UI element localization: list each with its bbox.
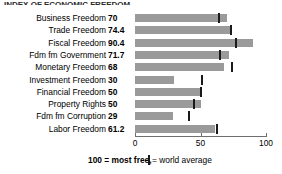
category-label: Business Freedom bbox=[0, 12, 106, 24]
score-value: 74.4 bbox=[108, 24, 131, 36]
chart-legend: 100 = most free, = world average bbox=[0, 154, 282, 170]
score-value: 29 bbox=[108, 110, 131, 122]
score-value: 30 bbox=[108, 74, 131, 86]
bar-row: Business Freedom70 bbox=[0, 12, 282, 24]
score-bar bbox=[135, 26, 232, 34]
bar-row: Property Rights50 bbox=[0, 98, 282, 110]
category-label: Fiscal Freedom bbox=[0, 37, 106, 49]
category-label: Labor Freedom bbox=[0, 123, 106, 135]
category-label: Fdm fm Government bbox=[0, 49, 106, 61]
bar-row: Labor Freedom61.2 bbox=[0, 123, 282, 135]
bar-row: Fiscal Freedom90.4 bbox=[0, 37, 282, 49]
score-bar bbox=[135, 125, 215, 133]
category-label: Property Rights bbox=[0, 98, 106, 110]
score-bar bbox=[135, 112, 173, 120]
world-average-tick bbox=[218, 13, 220, 23]
axis-tick-label: 0 bbox=[120, 138, 150, 149]
category-label: Fdm fm Corruption bbox=[0, 110, 106, 122]
bar-row: Fdm fm Corruption29 bbox=[0, 110, 282, 122]
score-bar bbox=[135, 63, 224, 71]
score-bar bbox=[135, 14, 227, 22]
world-average-tick bbox=[230, 25, 232, 35]
bar-row: Monetary Freedom68 bbox=[0, 61, 282, 73]
world-average-tick bbox=[188, 111, 190, 121]
score-bar bbox=[135, 76, 174, 84]
bar-row: Investment Freedom30 bbox=[0, 74, 282, 86]
score-bar bbox=[135, 100, 201, 108]
category-label: Trade Freedom bbox=[0, 24, 106, 36]
category-label: Financial Freedom bbox=[0, 86, 106, 98]
economic-freedom-chart: INDEX OF ECONOMIC FREEDOM Business Freed… bbox=[0, 0, 282, 174]
bar-row: Fdm fm Government71.7 bbox=[0, 49, 282, 61]
bar-row: Financial Freedom50 bbox=[0, 86, 282, 98]
legend-most-free-label: 100 = most free, bbox=[88, 154, 152, 166]
world-average-tick bbox=[219, 50, 221, 60]
score-value: 70 bbox=[108, 12, 131, 24]
score-value: 68 bbox=[108, 61, 131, 73]
score-value: 50 bbox=[108, 86, 131, 98]
axis-tick-label: 100 bbox=[251, 138, 281, 149]
world-average-marker-icon bbox=[148, 155, 150, 165]
world-average-tick bbox=[216, 124, 218, 134]
world-average-tick bbox=[201, 75, 203, 85]
chart-title-cutoff: INDEX OF ECONOMIC FREEDOM bbox=[4, 0, 164, 5]
world-average-tick bbox=[193, 99, 195, 109]
score-value: 90.4 bbox=[108, 37, 131, 49]
score-value: 61.2 bbox=[108, 123, 131, 135]
legend-world-average-label: = world average bbox=[152, 154, 212, 166]
score-bar bbox=[135, 88, 201, 96]
axis-tick-label: 50 bbox=[186, 138, 216, 149]
category-label: Monetary Freedom bbox=[0, 61, 106, 73]
score-value: 50 bbox=[108, 98, 131, 110]
axis-line bbox=[135, 136, 266, 137]
world-average-tick bbox=[235, 38, 237, 48]
bar-row: Trade Freedom74.4 bbox=[0, 24, 282, 36]
world-average-tick bbox=[200, 87, 202, 97]
score-bar bbox=[135, 51, 229, 59]
category-label: Investment Freedom bbox=[0, 74, 106, 86]
score-value: 71.7 bbox=[108, 49, 131, 61]
world-average-tick bbox=[231, 62, 233, 72]
